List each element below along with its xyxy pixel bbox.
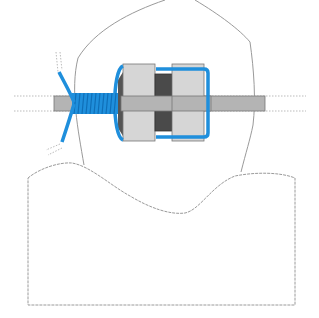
- wire-bolt-diagram: [0, 0, 319, 318]
- rod-through-nuts: [121, 96, 211, 111]
- wire-lead-top-dotted: [56, 52, 62, 72]
- diagram-stage: [0, 0, 319, 318]
- wire-lead-bottom-dotted: [46, 144, 62, 155]
- wire-coil: [72, 93, 118, 114]
- base-block: [28, 163, 295, 305]
